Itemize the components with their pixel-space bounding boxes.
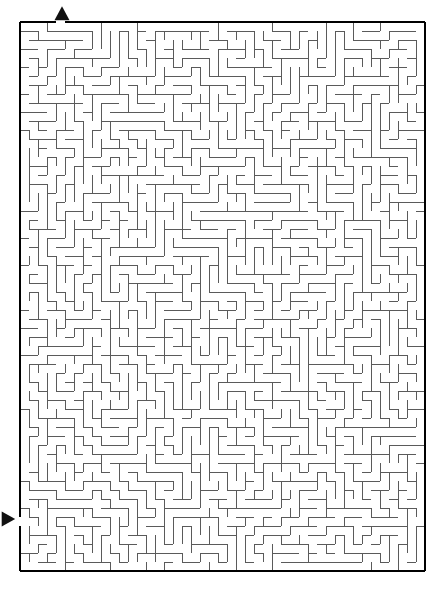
page-background	[0, 0, 443, 591]
maze-page	[0, 0, 443, 591]
maze-canvas	[0, 0, 443, 591]
